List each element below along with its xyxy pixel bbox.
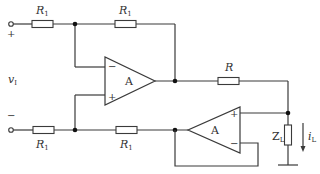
input-terminal-minus [9,128,14,133]
input-minus-sign: − [7,110,15,121]
r1-bottom-left-label: R1 [35,138,49,152]
input-plus-sign: + [7,28,15,39]
amp2-label: A [210,124,220,137]
top-input-branch [9,21,175,81]
amp1-inverting-sign: − [108,61,116,72]
load-node [286,111,291,116]
input-voltage-label: vI [8,73,17,87]
resistor-r-output [218,78,239,85]
bottom-input-branch [9,95,188,134]
junction-node [73,128,78,133]
amp1-noninverting-sign: + [108,91,116,102]
resistor-r1-top-left [32,21,53,28]
amp1-label: A [124,75,134,88]
r1-top-right-label: R1 [118,4,132,18]
current-arrow-icon [301,123,306,152]
resistor-r1-bottom-left [33,127,54,134]
amp2-inverting-sign: − [230,138,238,149]
junction-node [73,22,78,27]
load-zl-element [285,125,292,145]
resistor-r1-bottom-right [116,127,137,134]
current-label: iL [308,130,317,144]
resistor-r1-top-right [115,21,136,28]
opamp-1: − + A [105,57,155,105]
opamp-2: + − A [188,107,240,153]
load-label: ZL [272,130,285,144]
r1-bottom-right-label: R1 [119,138,133,152]
input-terminal-plus [9,22,14,27]
amp1-output-node [173,79,178,84]
load-impedance [278,125,298,165]
circuit-diagram: R1 R1 + vI − + A R − R1 R1 + − A [0,0,320,174]
r1-top-left-label: R1 [35,4,49,18]
r-output-label: R [224,61,233,74]
amp2-noninverting-sign: + [230,108,238,119]
